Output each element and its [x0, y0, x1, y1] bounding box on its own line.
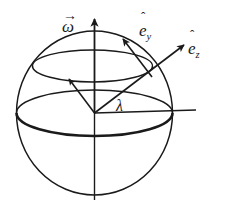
label-e-z-subscript: z	[196, 49, 200, 60]
label-e-z: ez	[188, 40, 200, 61]
horizontal-reference-line	[95, 110, 197, 113]
label-e-y-subscript: y	[147, 31, 152, 42]
label-e-z-base: e	[188, 39, 196, 58]
label-e-y: ey	[139, 22, 151, 43]
label-omega: ω	[62, 18, 74, 35]
label-lambda: λ	[116, 98, 123, 114]
e-z-arrow	[95, 45, 185, 113]
label-e-y-base: e	[139, 21, 147, 40]
unlabeled-inward-arrow	[69, 79, 95, 113]
